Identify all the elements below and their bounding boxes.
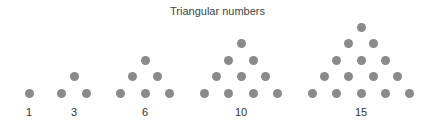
group-label: 6 [130, 106, 160, 118]
dot [320, 72, 329, 81]
group-label: 3 [59, 106, 89, 118]
dot [393, 72, 402, 81]
dot [70, 72, 79, 81]
dot [381, 89, 390, 98]
group-label: 1 [14, 106, 44, 118]
dot [165, 89, 174, 98]
group-label: 10 [226, 106, 256, 118]
dot [381, 56, 390, 65]
dot [344, 39, 353, 48]
group-label: 15 [346, 106, 376, 118]
dot [249, 89, 258, 98]
dot [128, 72, 137, 81]
dot [344, 72, 353, 81]
dot [332, 56, 341, 65]
dot [369, 39, 378, 48]
dot [332, 89, 341, 98]
dot [25, 89, 34, 98]
dot [237, 72, 246, 81]
dot [369, 72, 378, 81]
dot [261, 72, 270, 81]
dot [212, 72, 221, 81]
dot [308, 89, 317, 98]
dot [82, 89, 91, 98]
dot [116, 89, 125, 98]
dot [141, 56, 150, 65]
dot [224, 89, 233, 98]
dot [57, 89, 66, 98]
dot [357, 89, 366, 98]
dot [153, 72, 162, 81]
dot [405, 89, 414, 98]
dot [141, 89, 150, 98]
dot [224, 56, 233, 65]
dot [249, 56, 258, 65]
dot [357, 23, 366, 32]
dot [200, 89, 209, 98]
dot [237, 39, 246, 48]
diagram-title: Triangular numbers [0, 5, 435, 17]
dot [357, 56, 366, 65]
dot [273, 89, 282, 98]
